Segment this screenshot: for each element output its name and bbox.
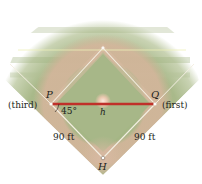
playing-field [5,8,199,180]
label-angle: 45° [61,106,77,116]
third-base-point [49,102,52,105]
label-side-right: 90 ft [134,132,156,142]
label-first: (first) [162,100,188,110]
second-base-point [102,47,105,50]
label-p: P [45,89,53,100]
home-plate-point [101,156,105,160]
label-q: Q [151,89,159,100]
first-base-point [153,102,156,105]
label-side-left: 90 ft [53,132,75,142]
label-home: H [97,161,107,172]
label-h-segment: h [100,107,106,117]
label-third: (third) [8,100,37,110]
baseball-diamond-diagram: P (third) Q (first) 45° h 90 ft 90 ft H [0,0,202,184]
